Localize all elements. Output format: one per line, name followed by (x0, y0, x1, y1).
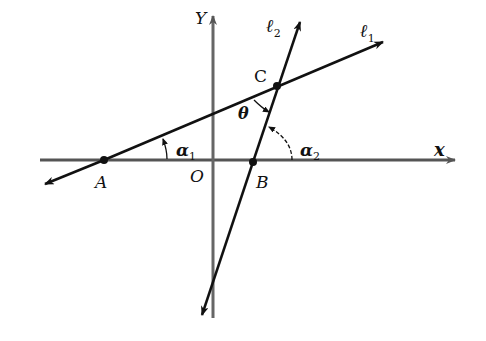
alpha2-arc (269, 127, 292, 160)
x-axis-label: x (434, 139, 445, 160)
line-l1 (104, 42, 383, 160)
l2-label: ℓ2 (266, 15, 281, 40)
point-a-label: A (95, 172, 107, 192)
point-a (100, 156, 108, 164)
line-l2-back (202, 162, 253, 315)
alpha1-arc (163, 139, 167, 159)
point-b-label: B (256, 172, 269, 192)
diagram-canvas: Y x O ℓ2 ℓ1 A B C α1 α2 θ (0, 0, 486, 341)
line-l2 (253, 22, 300, 162)
l1-label: ℓ1 (360, 20, 375, 45)
point-c (273, 82, 281, 90)
diagram-svg (0, 0, 486, 341)
point-c-label: C (254, 66, 267, 86)
alpha2-label: α2 (300, 140, 320, 163)
theta-label: θ (238, 104, 249, 123)
alpha1-label: α1 (176, 140, 196, 163)
theta-arc (254, 100, 269, 112)
origin-label: O (190, 166, 204, 186)
y-axis-label: Y (195, 8, 206, 28)
point-b (249, 158, 257, 166)
